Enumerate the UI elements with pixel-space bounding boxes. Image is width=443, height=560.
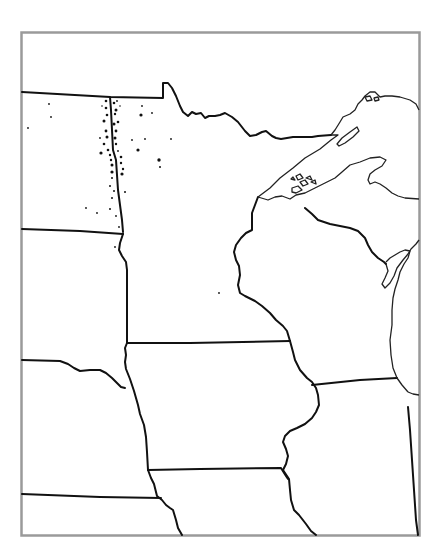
outline-map [0, 0, 443, 560]
map-frame-border [22, 33, 420, 536]
